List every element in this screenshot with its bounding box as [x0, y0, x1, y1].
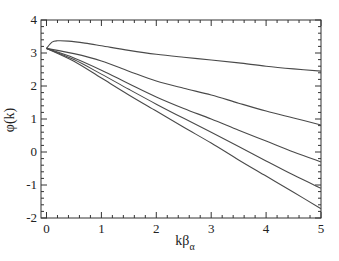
y-tick-label: -2	[26, 210, 37, 225]
plot-border	[41, 20, 321, 218]
y-tick-label: 4	[31, 12, 38, 27]
x-tick-label: 2	[153, 221, 160, 236]
line-chart: 012345 -2-101234 kβα φ(k)	[0, 0, 339, 261]
curve-5	[46, 48, 321, 208]
y-axis-label: φ(k)	[2, 107, 18, 132]
y-tick-label: 3	[31, 45, 38, 60]
x-tick-label: 1	[98, 221, 105, 236]
x-axis-label: kβα	[175, 233, 195, 252]
y-tick-labels: -2-101234	[26, 12, 37, 225]
axis-ticks	[41, 20, 321, 218]
x-tick-label: 0	[43, 221, 50, 236]
curve-3	[46, 48, 321, 162]
y-tick-label: 2	[31, 78, 38, 93]
x-tick-label: 4	[263, 221, 270, 236]
x-tick-label: 5	[318, 221, 325, 236]
curve-2	[46, 48, 321, 125]
y-tick-label: 1	[31, 111, 38, 126]
y-tick-label: -1	[26, 177, 37, 192]
x-tick-label: 3	[208, 221, 215, 236]
data-curves	[46, 41, 321, 209]
plot-frame	[41, 20, 321, 218]
y-tick-label: 0	[31, 144, 38, 159]
